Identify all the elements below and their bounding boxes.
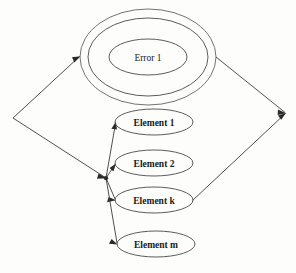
edge-element-k-to-right [193,113,287,201]
element-1[interactable]: Element 1 [115,109,193,135]
diagram-svg: Error 1 Element 1 Element 2 Element k El… [0,0,296,273]
edge-junction-to-element-m [106,178,118,244]
edge-junction-to-element-k [106,178,116,202]
element-k[interactable]: Element k [115,187,193,213]
branch-junction [104,176,108,180]
error-group[interactable]: Error 1 [80,9,216,105]
element-m-label: Element m [134,240,178,250]
edge-left-to-junction [13,118,106,179]
edge-error-to-right [216,57,286,115]
element-2-label: Element 2 [134,159,175,169]
element-m[interactable]: Element m [117,231,195,257]
element-2[interactable]: Element 2 [115,150,193,176]
element-k-label: Element k [133,196,175,206]
diagram-canvas: Error 1 Element 1 Element 2 Element k El… [0,0,296,273]
arrowhead-into-error [72,56,81,62]
edge-left-to-error [13,56,81,118]
error-label: Error 1 [134,53,161,63]
element-1-label: Element 1 [134,118,175,128]
